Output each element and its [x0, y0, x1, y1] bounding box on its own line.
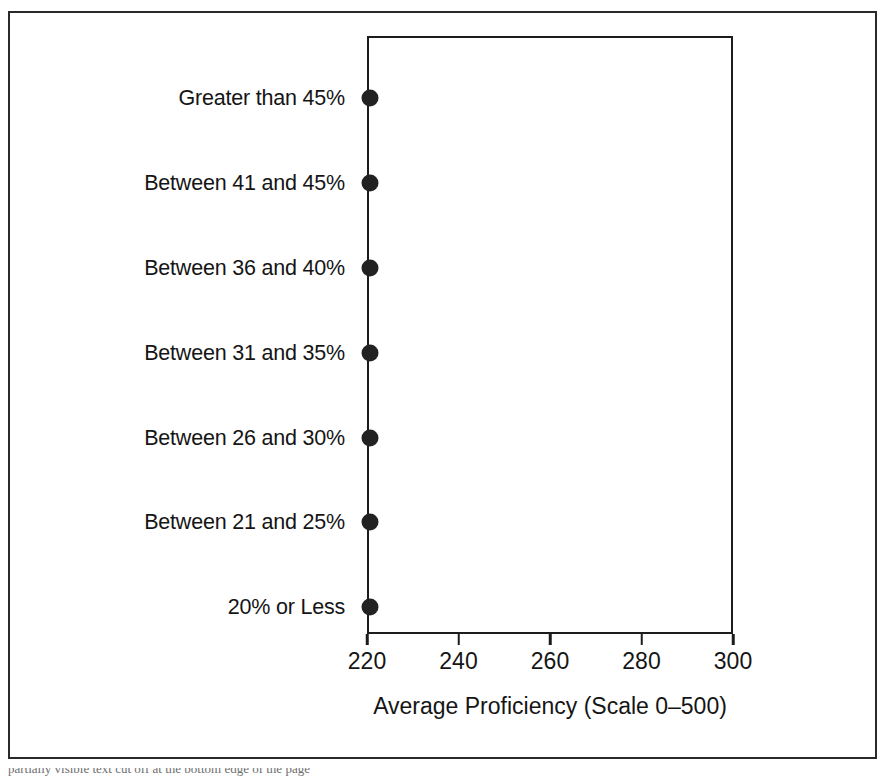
- x-axis-tick-label: 280: [622, 648, 660, 675]
- x-axis-tick: [732, 634, 735, 645]
- data-point-marker: [361, 599, 378, 616]
- category-label: Between 36 and 40%: [144, 255, 345, 280]
- x-axis-tick: [549, 634, 552, 645]
- category-label: Greater than 45%: [178, 86, 345, 111]
- category-label-column: Greater than 45% Between 41 and 45% Betw…: [0, 39, 355, 632]
- x-axis-tick: [640, 634, 643, 645]
- x-axis-tick-label: 300: [714, 648, 752, 675]
- figure: Greater than 45% Between 41 and 45% Betw…: [0, 0, 889, 778]
- category-label: Between 31 and 35%: [144, 340, 345, 365]
- category-label: Between 21 and 25%: [144, 510, 345, 535]
- data-point-marker: [361, 90, 378, 107]
- clipped-caption: partially visible text cut off at the bo…: [8, 768, 877, 778]
- x-axis-tick-label: 240: [439, 648, 477, 675]
- category-label: Between 26 and 30%: [144, 425, 345, 450]
- data-point-marker: [361, 514, 378, 531]
- data-point-marker: [361, 344, 378, 361]
- x-axis-tick: [366, 634, 369, 645]
- data-point-marker: [361, 259, 378, 276]
- plot-surface: [370, 39, 731, 632]
- clipped-caption-text: partially visible text cut off at the bo…: [8, 768, 877, 777]
- x-axis-tick: [457, 634, 460, 645]
- x-axis-tick-label: 220: [348, 648, 386, 675]
- x-axis: 220 240 260 280 300: [367, 634, 733, 694]
- data-point-marker: [361, 429, 378, 446]
- category-label: 20% or Less: [228, 595, 345, 620]
- category-label: Between 41 and 45%: [144, 171, 345, 196]
- data-point-marker: [361, 175, 378, 192]
- x-axis-tick-label: 260: [531, 648, 569, 675]
- x-axis-title: Average Proficiency (Scale 0–500): [367, 693, 733, 720]
